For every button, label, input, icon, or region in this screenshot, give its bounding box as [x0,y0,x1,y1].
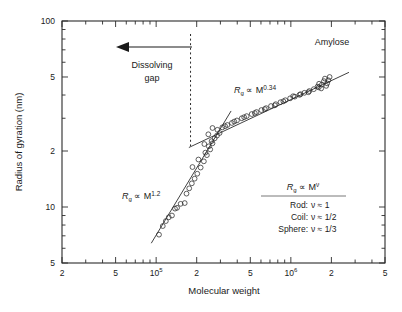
rod-fit-exp: 1.2 [151,190,160,197]
coil-fit-exp: 0.34 [263,84,276,91]
rod-fit-M: M [144,191,152,201]
log-log-scatter-chart: 251052510625 51025100 Dissolving gap Amy… [0,0,402,312]
legend-shape-2: Sphere: [278,224,308,234]
series-name-label: Amylose [315,37,350,47]
y-tick-label-1: 10 [46,202,56,212]
y-tick-label-4: 100 [41,16,55,26]
legend-header: Rg∝Mν [287,181,320,194]
legend-relation-1: ν ≈ 1/2 [311,212,337,222]
y-tick-label-2: 2 [50,146,55,156]
y-tick-label-0: 5 [50,258,55,268]
x-tick-label-7: 5 [383,268,388,278]
coil-fit-prop: ∝ [246,85,252,95]
legend-header-sub: g [293,187,296,193]
legend-relation-0: ν ≈ 1 [311,200,330,210]
coil-fit-sub: g [241,90,244,96]
legend-header-exp: ν [316,181,319,188]
x-tick-label-4: 5 [248,268,253,278]
rod-fit-sub: g [129,196,132,202]
x-tick-label-6: 2 [329,268,334,278]
y-tick-label-3: 5 [50,72,55,82]
x-tick-label-0: 2 [60,268,65,278]
x-tick-label-1: 5 [113,268,118,278]
legend-header-M: M [309,182,317,192]
x-tick-label-3: 2 [194,268,199,278]
coil-fit-M: M [256,85,264,95]
rod-fit-prop: ∝ [134,191,140,201]
dissolving-gap-label-line1: Dissolving [131,60,172,70]
legend-shape-0: Rod: [290,200,308,210]
x-axis-title: Molecular weight [188,285,260,296]
dissolving-gap-label-line2: gap [144,73,159,83]
chart-page: 251052510625 51025100 Dissolving gap Amy… [0,0,402,312]
legend-relation-2: ν ≈ 1/3 [311,224,337,234]
y-axis-title: Radius of gyration (nm) [13,93,24,192]
legend-shape-1: Coil: [291,212,308,222]
legend-header-prop: ∝ [299,182,305,192]
